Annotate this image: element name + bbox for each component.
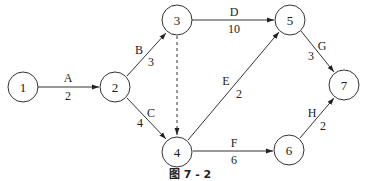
edge-label-G: G xyxy=(318,39,327,53)
edge-duration-G: 3 xyxy=(308,49,314,63)
node-4: 4 xyxy=(162,137,192,167)
edge-duration-C: 4 xyxy=(137,116,143,130)
edge-duration-H: 2 xyxy=(320,119,326,133)
edge-label-D: D xyxy=(230,5,239,19)
node-2: 2 xyxy=(100,72,130,102)
node-7: 7 xyxy=(329,70,359,100)
edge-duration-F: 6 xyxy=(231,153,237,167)
svg-text:5: 5 xyxy=(287,13,294,28)
edge-duration-B: 3 xyxy=(148,55,154,69)
edge-4-5 xyxy=(188,32,279,140)
edge-2-3 xyxy=(127,33,166,76)
edge-duration-D: 10 xyxy=(228,22,240,36)
node-6: 6 xyxy=(274,135,304,165)
edge-duration-E: 2 xyxy=(236,87,242,101)
edge-label-F: F xyxy=(231,136,238,150)
edge-6-7 xyxy=(300,98,334,138)
network-diagram: A 2 B 3 C 4 D 10 E 2 F 6 G 3 H 2 1 2 3 4… xyxy=(0,0,365,181)
svg-text:6: 6 xyxy=(286,143,293,158)
edge-duration-A: 2 xyxy=(65,89,71,103)
node-3: 3 xyxy=(162,5,192,35)
edge-label-H: H xyxy=(308,106,317,120)
svg-text:1: 1 xyxy=(20,80,27,95)
edge-label-C: C xyxy=(147,106,155,120)
svg-text:7: 7 xyxy=(341,78,348,93)
figure-caption: 图 7 - 2 xyxy=(169,168,211,181)
svg-text:2: 2 xyxy=(112,80,119,95)
node-5: 5 xyxy=(275,5,305,35)
node-1: 1 xyxy=(8,72,38,102)
edge-label-E: E xyxy=(222,74,229,88)
edge-label-A: A xyxy=(64,71,73,85)
svg-text:3: 3 xyxy=(174,13,181,28)
edge-label-B: B xyxy=(135,43,143,57)
svg-text:4: 4 xyxy=(174,145,181,160)
